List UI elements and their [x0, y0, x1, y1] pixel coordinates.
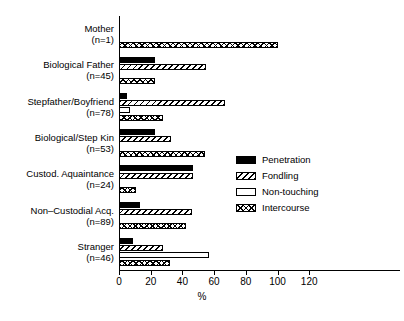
x-tick	[246, 270, 247, 275]
x-axis-line	[119, 270, 400, 271]
category-name: Biological Father	[0, 59, 114, 70]
bar-intercourse	[119, 42, 278, 48]
bar-penetration	[119, 238, 133, 244]
bar-fondling	[119, 209, 192, 215]
category-label: Biological/Step Kin(n=53)	[0, 132, 114, 154]
category-sample-size: (n=78)	[0, 107, 114, 118]
bar-fondling	[119, 100, 225, 106]
bar-penetration	[119, 129, 155, 135]
x-tick	[278, 270, 279, 275]
category-name: Non–Custodial Acq.	[0, 205, 114, 216]
x-tick-label: 60	[199, 276, 229, 288]
bar-fondling	[119, 173, 193, 179]
bar-penetration	[119, 57, 155, 63]
bar-intercourse	[119, 78, 155, 84]
bar-intercourse	[119, 223, 186, 229]
bar-fondling	[119, 64, 206, 70]
bar-intercourse	[119, 151, 205, 157]
legend-swatch-fondling	[236, 172, 256, 180]
x-tick-label: 100	[263, 276, 293, 288]
bar-fondling	[119, 136, 171, 142]
legend-label: Non-touching	[262, 187, 319, 197]
bar-intercourse	[119, 187, 136, 193]
x-tick-label: 120	[294, 276, 324, 288]
category-sample-size: (n=1)	[0, 34, 114, 45]
bar-penetration	[119, 202, 140, 208]
x-tick-label: 40	[167, 276, 197, 288]
x-tick	[151, 270, 152, 275]
category-label: Biological Father(n=45)	[0, 59, 114, 81]
category-label: Mother(n=1)	[0, 23, 114, 45]
category-sample-size: (n=89)	[0, 216, 114, 227]
legend-item: Fondling	[236, 168, 319, 184]
category-sample-size: (n=53)	[0, 143, 114, 154]
x-tick	[119, 270, 120, 275]
bar-fondling	[119, 245, 163, 251]
legend-swatch-penetration	[236, 156, 256, 164]
category-name: Stranger	[0, 241, 114, 252]
category-label: Non–Custodial Acq.(n=89)	[0, 205, 114, 227]
category-label: Stepfather/Boyfriend(n=78)	[0, 96, 114, 118]
bar-non-touching	[119, 252, 209, 258]
bar-intercourse	[119, 115, 163, 121]
category-name: Mother	[0, 23, 114, 34]
x-tick	[214, 270, 215, 275]
legend-item: Penetration	[236, 152, 319, 168]
plot-area	[119, 16, 400, 270]
legend-label: Intercourse	[262, 203, 310, 213]
bar-non-touching	[119, 107, 130, 113]
category-name: Stepfather/Boyfriend	[0, 96, 114, 107]
x-axis-title: %	[0, 291, 404, 302]
category-sample-size: (n=24)	[0, 179, 114, 190]
category-label: Stranger(n=46)	[0, 241, 114, 263]
bar-penetration	[119, 165, 193, 171]
x-tick-label: 20	[136, 276, 166, 288]
chart-legend: PenetrationFondlingNon-touchingIntercour…	[236, 152, 319, 216]
x-tick-label: 80	[231, 276, 261, 288]
bar-penetration	[119, 93, 127, 99]
legend-swatch-non-touching	[236, 188, 256, 196]
x-tick-label: 0	[104, 276, 134, 288]
bar-chart: 020406080100120 Mother(n=1)Biological Fa…	[0, 0, 404, 321]
legend-label: Penetration	[262, 155, 311, 165]
category-sample-size: (n=46)	[0, 252, 114, 263]
category-name: Custod. Aquaintance	[0, 168, 114, 179]
x-tick	[182, 270, 183, 275]
x-tick	[309, 270, 310, 275]
bar-intercourse	[119, 260, 170, 266]
category-label: Custod. Aquaintance(n=24)	[0, 168, 114, 190]
category-sample-size: (n=45)	[0, 70, 114, 81]
legend-swatch-intercourse	[236, 204, 256, 212]
legend-item: Intercourse	[236, 200, 319, 216]
category-name: Biological/Step Kin	[0, 132, 114, 143]
legend-label: Fondling	[262, 171, 298, 181]
legend-item: Non-touching	[236, 184, 319, 200]
